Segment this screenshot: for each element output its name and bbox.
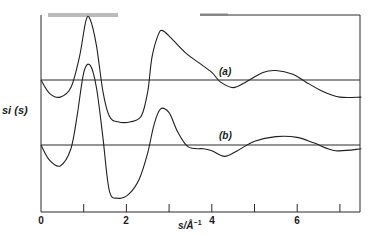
x-axis-label: s/Å−1: [178, 219, 202, 231]
x-axis-ticks: [84, 204, 340, 212]
plot-frame: [41, 15, 360, 212]
curve-a: [41, 16, 361, 122]
x-tick-label-0: 0: [38, 215, 44, 226]
x-axis-label-exponent: −1: [194, 219, 202, 226]
baselines: [41, 80, 360, 145]
x-tick-label-2: 2: [123, 215, 129, 226]
y-axis-label: si (s): [2, 104, 28, 116]
diffraction-chart: [0, 0, 374, 236]
curve-a-label: (a): [219, 66, 231, 77]
curve-b: [41, 64, 361, 198]
x-axis-label-main: s/Å: [178, 220, 194, 231]
curve-b-label: (b): [219, 130, 232, 141]
x-tick-label-4: 4: [209, 215, 215, 226]
x-tick-label-6: 6: [294, 215, 300, 226]
top-smudge: [48, 13, 228, 17]
